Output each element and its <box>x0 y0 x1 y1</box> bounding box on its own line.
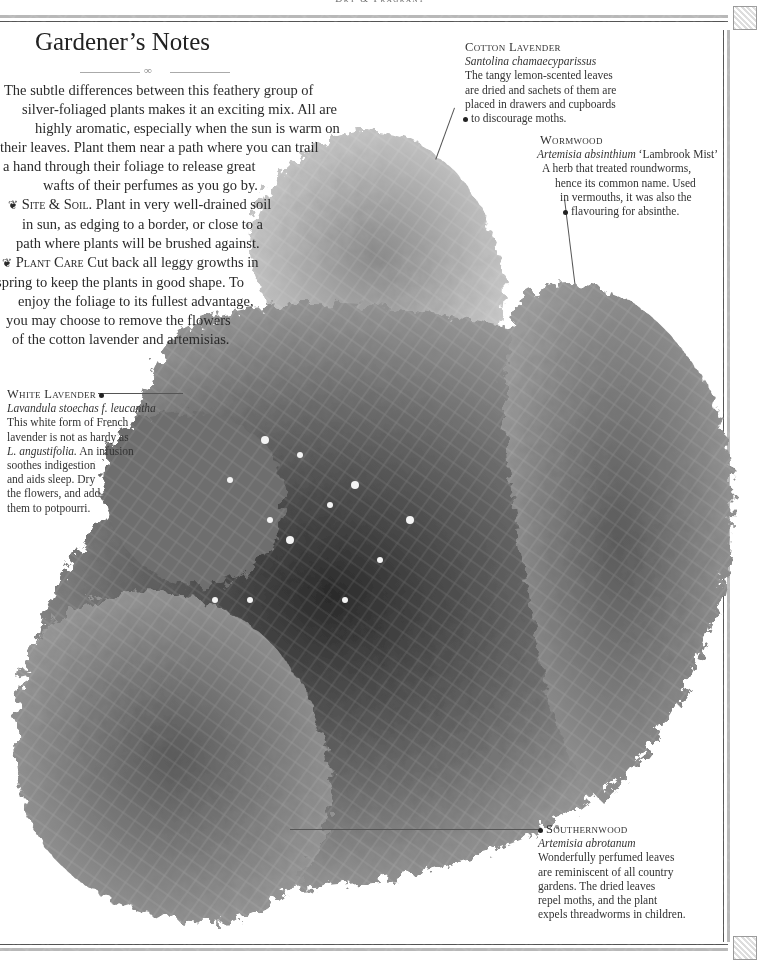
callout-white-lavender: White Lavender Lavandula stoechas f. leu… <box>7 387 156 515</box>
page-title: Gardener’s Notes <box>0 28 245 56</box>
plant-care-line: ❦ Plant Care Cut back all leggy growths … <box>0 253 360 273</box>
intro-line: highly aromatic, especially when the sun… <box>0 119 360 138</box>
plant-care-label: Plant Care <box>16 254 84 270</box>
leader-line-southernwood <box>290 829 538 830</box>
leader-dot-icon <box>463 117 468 122</box>
site-soil-line: in sun, as edging to a border, or close … <box>0 215 360 234</box>
intro-line: wafts of their perfumes as you go by. <box>0 176 360 195</box>
leader-dot-icon <box>538 828 543 833</box>
callout-cotton-lavender: Cotton Lavender Santolina chamaecypariss… <box>465 40 616 125</box>
site-soil-label: Site & Soil. <box>22 196 93 212</box>
intro-line: a hand through their foliage to release … <box>0 157 360 176</box>
leaf-bullet-icon: ❦ <box>2 256 12 270</box>
plant-name: Cotton Lavender <box>465 40 616 54</box>
plant-name: White Lavender <box>7 387 96 401</box>
leader-dot-icon <box>99 393 104 398</box>
latin-name: Santolina chamaecyparissus <box>465 54 616 68</box>
callout-wormwood: Wormwood Artemisia absinthium ‘Lambrook … <box>537 133 718 218</box>
flourish-icon: ∞ <box>144 64 152 76</box>
plant-name: Wormwood <box>537 133 718 147</box>
cultivar-name: ‘Lambrook Mist’ <box>639 148 719 160</box>
plant-care-line: spring to keep the plants in good shape.… <box>0 273 360 292</box>
plant-name: Southernwood <box>546 822 628 836</box>
intro-line: The subtle differences between this feat… <box>0 81 360 100</box>
plant-care-line: you may choose to remove the flowers <box>0 311 360 330</box>
intro-line: their leaves. Plant them near a path whe… <box>0 138 360 157</box>
intro-text: The subtle differences between this feat… <box>0 81 360 349</box>
latin-name: Lavandula stoechas f. leucantha <box>7 401 156 415</box>
latin-name: Artemisia abrotanum <box>538 836 686 850</box>
title-ornament: ∞ <box>70 67 230 77</box>
intro-line: silver-foliaged plants makes it an excit… <box>0 100 360 119</box>
plant-care-line: of the cotton lavender and artemisias. <box>0 330 360 349</box>
leaf-bullet-icon: ❦ <box>8 198 18 212</box>
site-soil-line: ❦ Site & Soil. Plant in very well-draine… <box>0 195 360 215</box>
callout-southernwood: Southernwood Artemisia abrotanum Wonderf… <box>538 822 686 921</box>
plant-care-line: enjoy the foliage to its fullest advanta… <box>0 292 360 311</box>
site-soil-line: path where plants will be brushed agains… <box>0 234 360 253</box>
leader-dot-icon <box>563 210 568 215</box>
latin-name: Artemisia absinthium <box>537 148 636 160</box>
